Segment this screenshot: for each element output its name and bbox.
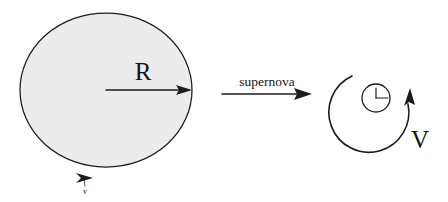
ejecta-velocity-arrowhead (404, 88, 415, 106)
ejecta-shell-arc (329, 76, 409, 152)
right-panel-remnant (329, 76, 415, 152)
middle-panel-supernova-arrow (222, 88, 312, 100)
left-panel-progenitor-star (20, 13, 192, 186)
ejecta-velocity-label: V (411, 126, 429, 153)
diagram-canvas: R v supernova V (0, 0, 448, 202)
supernova-diagram: R v supernova V (0, 0, 448, 202)
surface-velocity-label: v (83, 187, 87, 196)
supernova-label: supernova (239, 74, 294, 89)
radius-label: R (135, 58, 152, 85)
